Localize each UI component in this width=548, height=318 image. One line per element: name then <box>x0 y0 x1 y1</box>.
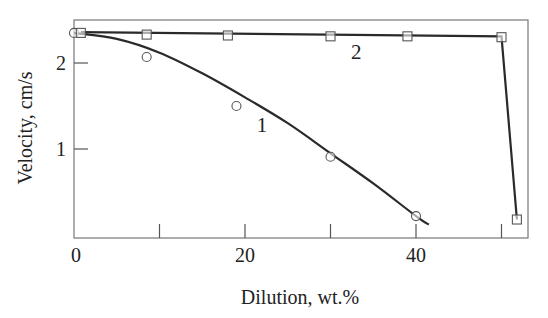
square-marker <box>142 30 151 39</box>
square-marker <box>223 31 232 40</box>
x-tick-label: 40 <box>406 244 426 266</box>
y-tick-label: 1 <box>56 138 66 160</box>
series-2-label: 2 <box>351 40 362 64</box>
velocity-dilution-chart: 0204012 12 Dilution, wt.% Velocity, cm/s <box>0 0 548 318</box>
circle-marker <box>326 152 335 161</box>
y-axis-label: Velocity, cm/s <box>14 71 37 184</box>
square-marker <box>76 28 85 37</box>
series-1-label: 1 <box>257 113 268 137</box>
axes-box <box>74 20 528 238</box>
plot-frame <box>74 20 528 238</box>
square-marker <box>326 32 335 41</box>
square-marker <box>403 32 412 41</box>
series-1-line <box>74 33 429 225</box>
x-axis-label: Dilution, wt.% <box>241 286 359 308</box>
axis-ticks: 0204012 <box>56 52 502 266</box>
x-tick-label: 20 <box>235 244 255 266</box>
series-labels: 12 <box>257 40 362 137</box>
square-marker <box>512 215 521 224</box>
square-marker <box>497 33 506 42</box>
data-curves <box>74 32 517 225</box>
circle-marker <box>142 52 151 61</box>
data-markers <box>70 28 522 224</box>
y-tick-label: 2 <box>56 52 66 74</box>
circle-marker <box>232 102 241 111</box>
circle-marker <box>412 212 421 221</box>
x-tick-label: 0 <box>71 244 81 266</box>
chart-container: 0204012 12 Dilution, wt.% Velocity, cm/s <box>0 0 548 318</box>
